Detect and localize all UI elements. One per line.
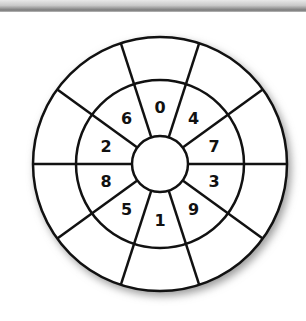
sector-number: 7 bbox=[208, 137, 219, 156]
center-circle bbox=[132, 136, 188, 192]
sector-number: 4 bbox=[188, 109, 199, 128]
number-wheel-diagram: 0 4 7 3 9 1 5 8 2 6 bbox=[0, 0, 306, 321]
sector-number: 5 bbox=[121, 200, 132, 219]
sector-number: 8 bbox=[100, 172, 111, 191]
sector-number: 6 bbox=[121, 109, 132, 128]
sector-number: 2 bbox=[100, 137, 111, 156]
sector-number: 9 bbox=[188, 200, 199, 219]
sector-number: 0 bbox=[154, 98, 165, 117]
sector-number: 3 bbox=[208, 172, 219, 191]
sector-number: 1 bbox=[154, 211, 165, 230]
